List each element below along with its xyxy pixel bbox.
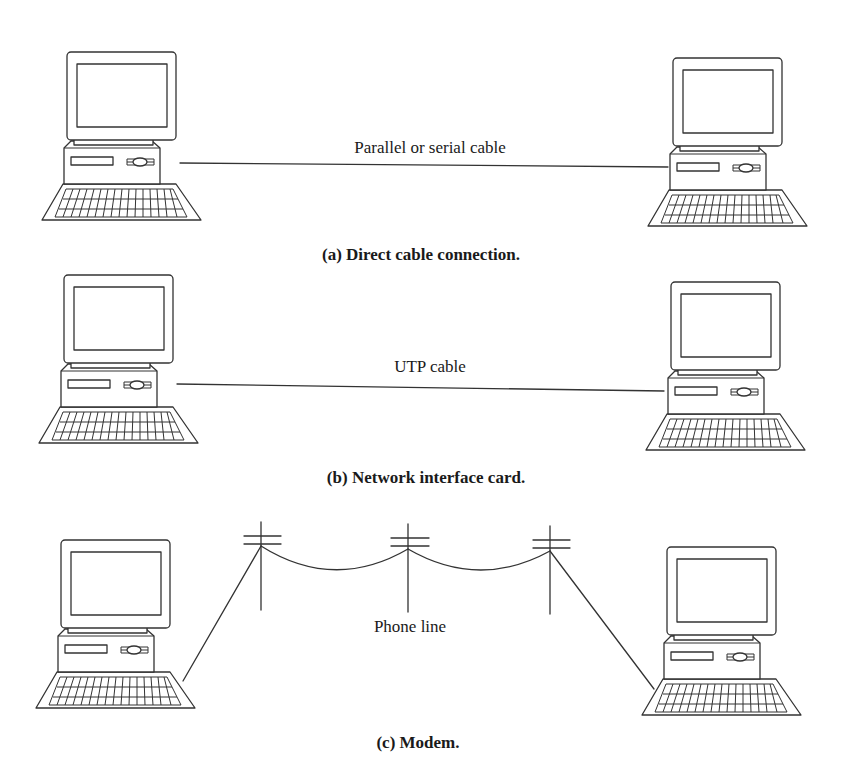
caption-a: (a) Direct cable connection. — [322, 245, 520, 265]
computer-icon — [642, 547, 801, 715]
computer-icon — [646, 282, 805, 450]
network-connection-diagram — [0, 0, 843, 784]
cable-label-c: Phone line — [374, 617, 446, 637]
computer-icon — [36, 540, 195, 708]
utp-cable — [177, 384, 664, 391]
cable-label-b: UTP cable — [394, 357, 466, 377]
computer-icon — [39, 275, 198, 443]
caption-c: (c) Modem. — [376, 733, 459, 753]
parallel-serial-cable — [180, 163, 668, 167]
computer-icon — [42, 52, 201, 220]
computer-icon — [648, 58, 807, 226]
cable-label-a: Parallel or serial cable — [354, 138, 506, 158]
phone-line — [183, 522, 654, 689]
caption-b: (b) Network interface card. — [327, 468, 525, 488]
